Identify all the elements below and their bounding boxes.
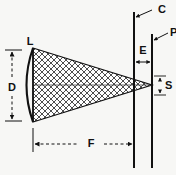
condenser-plane-label: C bbox=[158, 3, 166, 15]
lens-element bbox=[27, 48, 34, 122]
condenser-leader bbox=[136, 10, 152, 17]
dimension-f bbox=[33, 128, 132, 152]
lens-diagram-figure: L D C P E S bbox=[0, 0, 176, 175]
projection-leader bbox=[154, 33, 168, 40]
diagram-canvas: L D C P E S bbox=[0, 0, 176, 175]
plane-separation-label: E bbox=[139, 44, 146, 56]
diameter-label: D bbox=[8, 81, 16, 93]
spot-size-label: S bbox=[165, 79, 172, 91]
lens-label: L bbox=[27, 35, 34, 47]
projection-plane-label: P bbox=[170, 26, 176, 38]
focal-distance-label: F bbox=[88, 137, 95, 149]
